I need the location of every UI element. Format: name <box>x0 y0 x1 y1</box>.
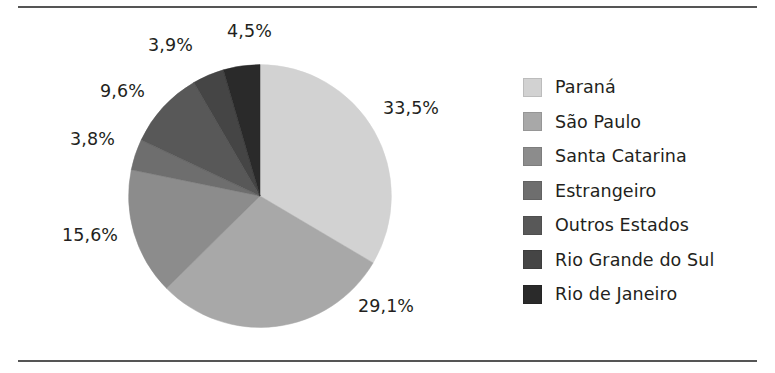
legend-item-label: Santa Catarina <box>555 146 687 166</box>
legend-color-swatch <box>523 285 542 304</box>
legend-color-swatch <box>523 147 542 166</box>
slice-label-sao-paulo: 29,1% <box>358 296 414 316</box>
legend-item[interactable]: Outros Estados <box>523 208 763 243</box>
slice-label-parana: 33,5% <box>383 98 439 118</box>
pie-chart-svg <box>128 64 392 328</box>
legend-item[interactable]: Paraná <box>523 70 763 105</box>
legend-item-label: Paraná <box>555 77 616 97</box>
top-divider-rule <box>18 6 757 8</box>
legend-color-swatch <box>523 250 542 269</box>
legend-item-label: Rio Grande do Sul <box>555 250 714 270</box>
legend-item-label: Rio de Janeiro <box>555 284 677 304</box>
legend-color-swatch <box>523 181 542 200</box>
chart-legend: ParanáSão PauloSanta CatarinaEstrangeiro… <box>523 70 763 312</box>
legend-item[interactable]: Santa Catarina <box>523 139 763 174</box>
slice-label-estrangeiro: 3,8% <box>70 129 115 149</box>
legend-item[interactable]: Rio de Janeiro <box>523 277 763 312</box>
legend-color-swatch <box>523 216 542 235</box>
bottom-divider-rule <box>18 360 757 362</box>
legend-color-swatch <box>523 78 542 97</box>
legend-item[interactable]: Estrangeiro <box>523 174 763 209</box>
slice-label-santa-catarina: 15,6% <box>62 225 118 245</box>
legend-color-swatch <box>523 112 542 131</box>
slice-label-outros-estados: 9,6% <box>100 81 145 101</box>
legend-item-label: São Paulo <box>555 112 641 132</box>
legend-item[interactable]: Rio Grande do Sul <box>523 243 763 278</box>
legend-item-label: Estrangeiro <box>555 181 656 201</box>
slice-label-rio-de-janeiro: 4,5% <box>227 21 272 41</box>
chart-canvas: 33,5% 29,1% 15,6% 3,8% 9,6% 3,9% 4,5% Pa… <box>0 0 775 373</box>
pie-chart <box>128 64 392 328</box>
slice-label-rio-grande-do-sul: 3,9% <box>148 35 193 55</box>
legend-item-label: Outros Estados <box>555 215 689 235</box>
legend-item[interactable]: São Paulo <box>523 105 763 140</box>
